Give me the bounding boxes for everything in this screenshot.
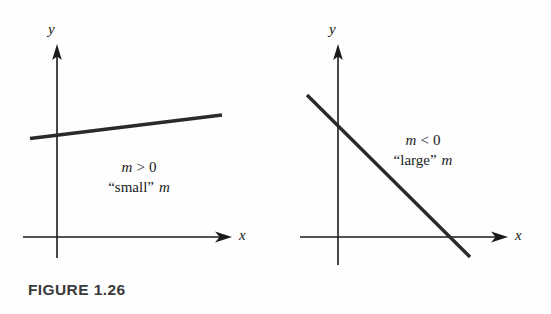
annotation-right-value: 0	[433, 132, 441, 148]
annotation-left: m>0 “small”m	[74, 157, 204, 198]
y-axis-label-left: y	[48, 22, 55, 37]
figure-caption: FIGURE 1.26	[28, 281, 125, 299]
annotation-left-qualifier: “small”	[108, 179, 154, 195]
annotation-right-qualifier: “large”	[394, 152, 437, 168]
graph-panel-small-positive-slope: y x m>0 “small”m	[0, 0, 275, 270]
annotation-right-variable-1: m	[406, 132, 417, 148]
figure-container: y x m>0 “small”m y x	[0, 0, 551, 314]
annotation-left-line2: “small”m	[74, 177, 204, 197]
annotation-left-value: 0	[149, 159, 157, 175]
annotation-right-relation: <	[420, 132, 428, 148]
x-axis-label-right: x	[515, 228, 522, 243]
annotation-left-line1: m>0	[74, 157, 204, 177]
annotation-left-variable-1: m	[122, 159, 133, 175]
annotation-right: m<0 “large”m	[353, 130, 493, 171]
y-axis-label-right: y	[329, 22, 336, 37]
plotted-line-small-positive-slope	[30, 115, 222, 139]
annotation-left-variable-2: m	[159, 179, 170, 195]
annotation-right-line1: m<0	[353, 130, 493, 150]
graph-left-svg	[0, 0, 275, 270]
annotation-right-line2: “large”m	[353, 150, 493, 170]
annotation-right-variable-2: m	[442, 152, 453, 168]
annotation-left-relation: >	[136, 159, 144, 175]
x-axis-label-left: x	[239, 228, 246, 243]
graph-panel-large-negative-slope: y x m<0 “large”m	[275, 0, 551, 270]
plotted-line-large-negative-slope	[307, 95, 470, 257]
